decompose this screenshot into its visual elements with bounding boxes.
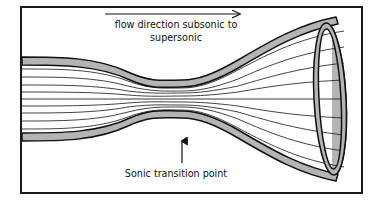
nozzle-diagram-canvas: flow direction subsonic to supersonic So… <box>0 0 383 206</box>
flow-direction-label-line1: flow direction subsonic to <box>115 19 238 30</box>
nozzle-diagram: flow direction subsonic to supersonic So… <box>0 0 383 206</box>
flow-direction-label-line2: supersonic <box>150 32 202 43</box>
sonic-transition-label: Sonic transition point <box>125 168 227 179</box>
